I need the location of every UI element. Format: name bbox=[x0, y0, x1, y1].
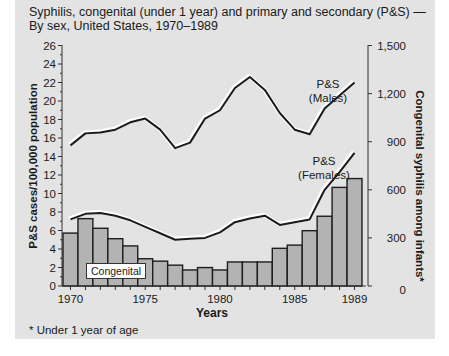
right-tick-label: 0 bbox=[400, 284, 406, 296]
congenital-label: Congenital bbox=[86, 263, 146, 279]
left-tick-label: 22 bbox=[43, 77, 56, 89]
congenital-bar bbox=[242, 262, 257, 286]
left-tick-label: 2 bbox=[50, 262, 56, 274]
left-tick-label: 10 bbox=[43, 188, 56, 200]
left-tick-label: 26 bbox=[43, 40, 56, 52]
right-tick-label: 600 bbox=[387, 184, 406, 196]
chart-svg: 0246810121416182022242619701975198019851… bbox=[0, 0, 449, 356]
congenital-bar bbox=[198, 268, 213, 286]
congenital-bar bbox=[287, 245, 302, 286]
left-tick-label: 16 bbox=[43, 132, 56, 144]
right-tick-label: 1,500 bbox=[377, 40, 406, 52]
left-tick-label: 24 bbox=[43, 58, 56, 70]
left-tick-label: 20 bbox=[43, 95, 56, 107]
congenital-bar bbox=[347, 179, 362, 286]
congenital-bar bbox=[183, 270, 198, 286]
congenital-bar bbox=[272, 248, 287, 286]
x-tick-label: 1975 bbox=[132, 293, 158, 305]
left-tick-label: 18 bbox=[43, 114, 56, 126]
left-tick-label: 14 bbox=[43, 151, 56, 163]
congenital-bar bbox=[227, 262, 242, 286]
x-tick-label: 1985 bbox=[282, 293, 308, 305]
series-label: P&S bbox=[312, 155, 335, 167]
series-label: P&S bbox=[316, 78, 339, 90]
right-tick-label: 1,200 bbox=[377, 88, 406, 100]
right-tick-label: 900 bbox=[387, 136, 406, 148]
right-axis-title: Congenital syphilis among infants* bbox=[414, 90, 426, 282]
congenital-bar bbox=[63, 233, 78, 286]
footnote: * Under 1 year of age bbox=[29, 324, 138, 336]
congenital-bar bbox=[168, 265, 183, 286]
left-tick-label: 6 bbox=[50, 225, 56, 237]
left-tick-label: 0 bbox=[50, 280, 56, 292]
x-tick-label: 1970 bbox=[58, 293, 84, 305]
right-tick-label: 300 bbox=[387, 232, 406, 244]
series-label: (Males) bbox=[309, 92, 348, 104]
congenital-bar bbox=[213, 270, 228, 286]
x-axis-title: Years bbox=[196, 306, 228, 320]
congenital-bar bbox=[332, 187, 347, 286]
line-halo bbox=[69, 76, 353, 147]
congenital-bar bbox=[257, 262, 272, 286]
left-tick-label: 4 bbox=[50, 243, 57, 255]
series-label: (Females) bbox=[298, 169, 350, 181]
left-tick-label: 8 bbox=[50, 206, 56, 218]
congenital-bar bbox=[153, 261, 168, 286]
congenital-bar bbox=[317, 216, 332, 286]
x-tick-label: 1989 bbox=[342, 293, 368, 305]
congenital-bar bbox=[302, 231, 317, 286]
line-halo bbox=[69, 152, 353, 239]
left-axis-title: P&S cases/100,000 population bbox=[27, 83, 39, 249]
left-tick-label: 12 bbox=[43, 169, 56, 181]
x-tick-label: 1980 bbox=[207, 293, 233, 305]
